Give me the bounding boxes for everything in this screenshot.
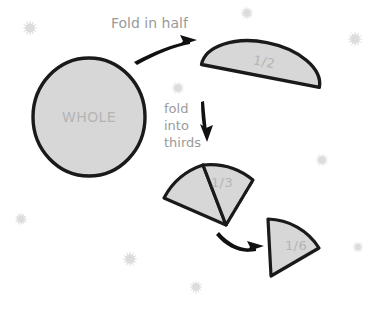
arrow-to-thirds-head bbox=[200, 124, 213, 142]
caption-fold-into-thirds-line2: into bbox=[164, 118, 189, 133]
whole-circle-label: WHOLE bbox=[62, 109, 116, 125]
caption-fold-into-thirds: fold into thirds bbox=[164, 101, 201, 150]
caption-fold-into-thirds-line3: thirds bbox=[164, 135, 201, 150]
third-shape-label: 1/3 bbox=[211, 175, 233, 190]
sparkle-icon bbox=[11, 209, 30, 228]
arrow-to-half bbox=[134, 35, 197, 65]
half-shape: 1/2 bbox=[202, 31, 326, 87]
sparkle-icon bbox=[119, 248, 141, 270]
arrow-to-thirds bbox=[200, 101, 213, 142]
sparkle-icon bbox=[350, 239, 366, 255]
whole-circle-shape: WHOLE bbox=[33, 58, 145, 176]
fraction-folding-diagram: WHOLE 1/2 1/3 1/6 bbox=[0, 0, 382, 309]
arrow-to-sixth bbox=[216, 232, 264, 252]
sixth-shape-label: 1/6 bbox=[285, 238, 307, 253]
sparkle-icon bbox=[186, 277, 205, 296]
sparkle-icon bbox=[19, 17, 41, 39]
sixth-shape: 1/6 bbox=[268, 219, 319, 276]
sparkle-icon bbox=[344, 28, 366, 50]
caption-fold-into-thirds-line1: fold bbox=[164, 101, 188, 116]
sparkle-icon bbox=[312, 150, 331, 169]
sparkle-icon bbox=[237, 3, 256, 22]
caption-fold-in-half: Fold in half bbox=[111, 15, 189, 31]
sparkle-icon bbox=[168, 78, 187, 97]
third-shape: 1/3 bbox=[164, 165, 253, 225]
